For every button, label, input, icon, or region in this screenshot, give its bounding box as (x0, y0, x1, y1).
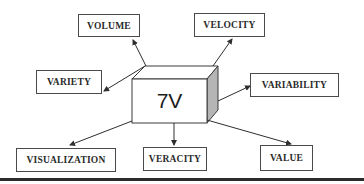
arrow-to-volume (133, 40, 146, 66)
arrow-to-visualization (70, 121, 132, 145)
arrow-to-velocity (213, 39, 232, 66)
node-value: VALUE (260, 145, 313, 171)
bottom-divider (0, 178, 364, 181)
arrow-to-variability (218, 86, 250, 101)
center-label: 7V (132, 79, 207, 123)
node-variety: VARIETY (36, 70, 102, 94)
node-volume: VOLUME (78, 14, 140, 37)
seven-v-diagram: 7V VOLUME VELOCITY VARIETY VARIABILITY V… (0, 0, 364, 184)
node-variability: VARIABILITY (250, 73, 339, 97)
node-visualization: VISUALIZATION (16, 148, 116, 172)
node-veracity: VERACITY (143, 147, 207, 171)
node-velocity: VELOCITY (194, 13, 265, 37)
arrow-to-value (207, 120, 291, 144)
